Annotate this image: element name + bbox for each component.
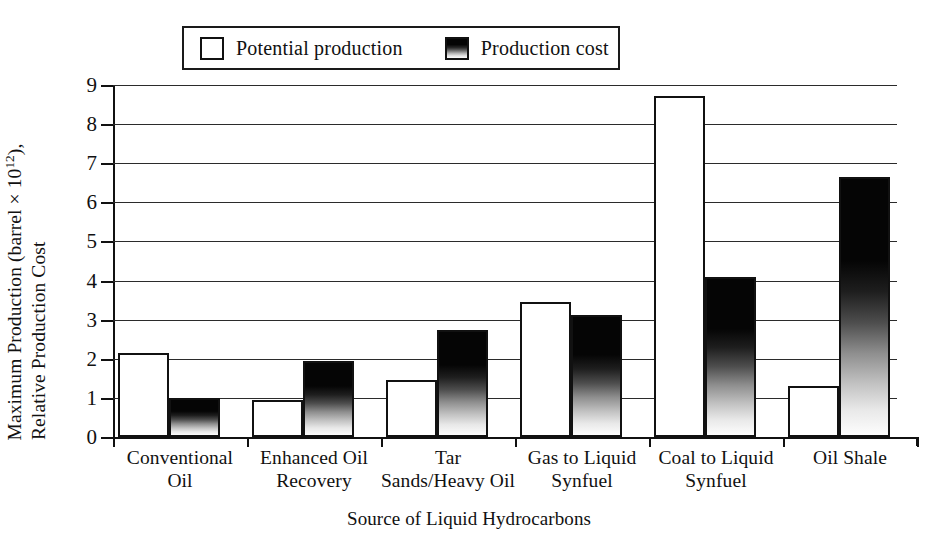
gridline-y-6 (113, 202, 897, 203)
bar-tar-sands-heavy-oil-potential-production (386, 380, 437, 437)
y-tick-mark-4 (101, 281, 113, 283)
gridline-y-1 (113, 398, 897, 399)
y-tick-label-0: 0 (77, 427, 97, 448)
x-tick-mark-6 (917, 437, 919, 447)
bar-gas-to-liquid-synfuel-potential-production (520, 302, 571, 437)
bar-coal-to-liquid-synfuel-production-cost (705, 277, 756, 437)
y-tick-label-4: 4 (77, 270, 97, 291)
y-tick-label-6: 6 (77, 192, 97, 213)
y-axis-title-line-1-tail: ), (4, 143, 25, 155)
y-tick-mark-2 (101, 359, 113, 361)
chart-figure: Potential production Production cost Max… (0, 0, 938, 551)
gridline-y-0 (113, 437, 897, 439)
gridline-y-8 (113, 124, 897, 125)
bar-conventional-oil-potential-production (118, 353, 169, 437)
y-tick-mark-0 (101, 437, 113, 439)
gridline-y-2 (113, 359, 897, 360)
y-tick-label-3: 3 (77, 309, 97, 330)
y-tick-mark-9 (101, 85, 113, 87)
plot-area: 0123456789 (113, 85, 897, 437)
bar-oil-shale-production-cost (839, 177, 890, 437)
y-tick-label-8: 8 (77, 114, 97, 135)
gridline-y-4 (113, 281, 897, 282)
bar-tar-sands-heavy-oil-production-cost (437, 330, 488, 437)
gridline-y-3 (113, 320, 897, 321)
legend-label-production-cost: Production cost (481, 37, 609, 60)
y-tick-mark-5 (101, 241, 113, 243)
legend-label-potential-production: Potential production (236, 37, 403, 60)
bar-enhanced-oil-recovery-potential-production (252, 400, 303, 437)
gridline-y-7 (113, 163, 897, 164)
bar-conventional-oil-production-cost (169, 398, 220, 437)
legend-entry-production-cost: Production cost (445, 37, 609, 60)
gridline-y-9 (113, 85, 897, 86)
y-tick-mark-6 (101, 202, 113, 204)
x-axis-title: Source of Liquid Hydrocarbons (0, 508, 938, 530)
gridline-y-5 (113, 241, 897, 242)
legend-entry-potential-production: Potential production (200, 37, 403, 60)
bar-coal-to-liquid-synfuel-potential-production (654, 96, 705, 437)
y-tick-label-7: 7 (77, 153, 97, 174)
bar-gas-to-liquid-synfuel-production-cost (571, 315, 622, 437)
y-tick-label-9: 9 (77, 75, 97, 96)
y-axis-title-line-1: Maximum Production (barrel × 1012), (2, 143, 27, 440)
x-category-label-oil-shale: Oil Shale (771, 447, 929, 470)
bar-oil-shale-potential-production (788, 386, 839, 437)
y-tick-label-5: 5 (77, 231, 97, 252)
y-tick-mark-1 (101, 398, 113, 400)
y-tick-mark-8 (101, 124, 113, 126)
y-tick-label-2: 2 (77, 348, 97, 369)
y-axis-title-line-2: Relative Production Cost (28, 242, 50, 440)
x-category-label-line-1: Oil Shale (771, 447, 929, 470)
y-axis-title: Maximum Production (barrel × 1012), Rela… (0, 78, 66, 440)
hollow-square-icon (200, 37, 224, 60)
x-category-label-line-2: Synfuel (637, 470, 795, 493)
y-axis-title-line-1-text: Maximum Production (barrel × 10 (4, 168, 25, 440)
y-tick-mark-7 (101, 163, 113, 165)
y-axis-exponent: 12 (2, 155, 17, 168)
chart-legend: Potential production Production cost (182, 26, 620, 70)
gradient-square-icon (445, 37, 469, 60)
y-tick-label-1: 1 (77, 387, 97, 408)
y-tick-mark-3 (101, 320, 113, 322)
bar-enhanced-oil-recovery-production-cost (303, 361, 354, 437)
